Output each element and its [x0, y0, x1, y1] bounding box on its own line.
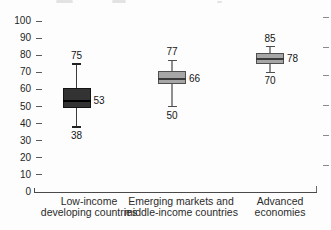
right-axis-tick-mark: [323, 135, 329, 136]
whisker-low-value-label: 70: [258, 75, 282, 86]
right-axis-tick-mark: [323, 47, 329, 48]
category-label-line: Advanced: [210, 196, 331, 207]
y-axis-tick-mark: [36, 55, 42, 56]
whisker-low-value-label: 38: [65, 130, 89, 141]
right-axis-tick-mark: [323, 105, 329, 106]
whisker-cap-low: [168, 106, 177, 108]
y-axis-tick-label: 60: [0, 83, 31, 95]
median-value-label: 78: [287, 53, 298, 65]
whisker-cap-high: [168, 60, 177, 62]
right-axis-tick-mark: [323, 165, 329, 166]
median-value-label: 66: [189, 73, 200, 85]
x-axis-left-stub: [34, 188, 35, 192]
x-axis-right-stub: [316, 186, 317, 192]
median-value-label: 53: [94, 95, 105, 107]
boxplot-chart: 0102030405060708090100753853Low-incomede…: [0, 0, 331, 230]
box: [63, 88, 91, 109]
plot-area: 0102030405060708090100753853Low-incomede…: [0, 0, 331, 230]
whisker-low-value-label: 50: [160, 110, 184, 121]
y-axis-tick-mark: [36, 21, 42, 22]
y-axis-tick-mark: [36, 38, 42, 39]
y-axis-tick-label: 100: [0, 15, 31, 27]
y-axis-tick-mark: [36, 106, 42, 107]
right-axis-tick-mark: [323, 17, 329, 18]
whisker-high-value-label: 75: [65, 50, 89, 61]
y-axis-tick-label: 90: [0, 32, 31, 44]
category-label: Advancedeconomies: [210, 196, 331, 217]
x-axis-line: [34, 192, 317, 193]
y-axis-tick-label: 50: [0, 101, 31, 113]
y-axis-tick-mark: [36, 174, 42, 175]
y-axis-tick-mark: [36, 89, 42, 90]
y-axis-tick-label: 30: [0, 135, 31, 147]
category-label-line: economies: [210, 207, 331, 218]
whisker-cap-low: [266, 72, 275, 74]
whisker-cap-low: [72, 126, 81, 128]
whisker-high-value-label: 85: [258, 33, 282, 44]
right-axis-tick-mark: [323, 75, 329, 76]
y-axis-tick-label: 10: [0, 169, 31, 181]
whisker-cap-high: [72, 63, 81, 65]
median-line: [256, 58, 284, 60]
y-axis-tick-label: 70: [0, 66, 31, 78]
y-axis-tick-label: 20: [0, 152, 31, 164]
whisker-high-value-label: 77: [160, 46, 184, 57]
median-line: [158, 78, 186, 80]
whisker-cap-high: [266, 46, 275, 48]
y-axis-tick-mark: [36, 72, 42, 73]
y-axis-tick-mark: [36, 123, 42, 124]
y-axis-tick-mark: [36, 140, 42, 141]
y-axis-tick-label: 40: [0, 118, 31, 130]
median-line: [63, 100, 91, 102]
y-axis-tick-label: 80: [0, 49, 31, 61]
y-axis-tick-mark: [36, 157, 42, 158]
